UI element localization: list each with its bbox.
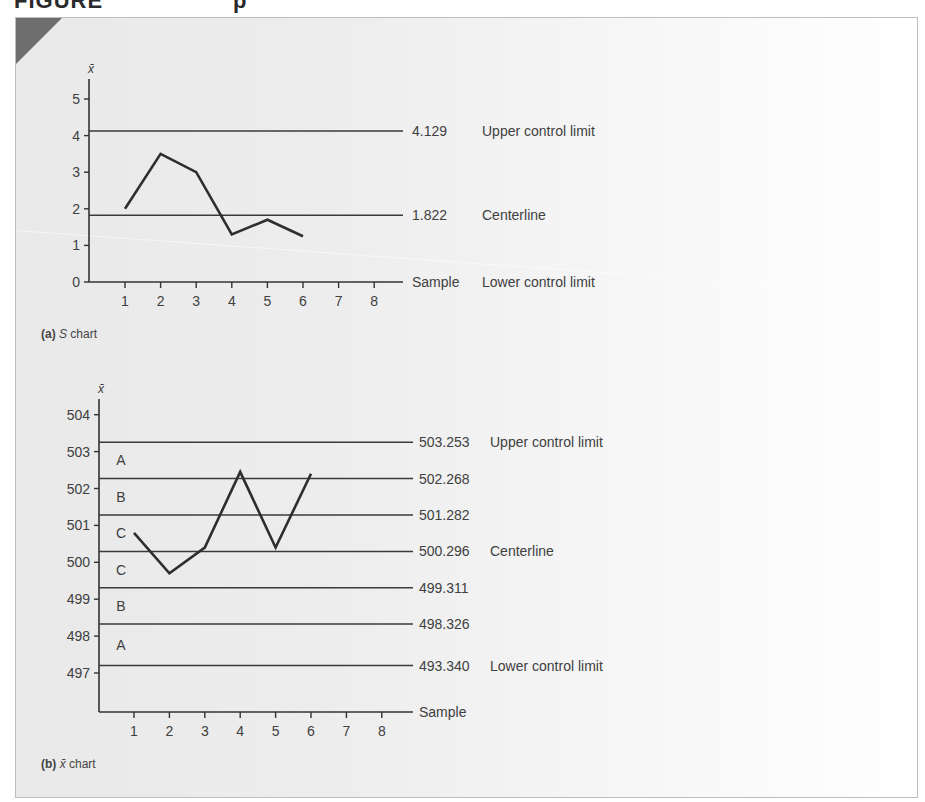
y-tick-label: 501: [67, 517, 91, 533]
s-y-ticks: 012345: [72, 91, 89, 290]
xbar-chart-caption: (b) x̄ chart: [41, 757, 96, 771]
reference-value-label: 501.282: [419, 507, 470, 523]
s-y-label: x̄: [87, 62, 95, 76]
xbar-y-label: x̄: [97, 382, 105, 396]
x-tick-label: 4: [236, 723, 244, 739]
reference-value-label: 500.296: [419, 543, 470, 559]
reference-name-label: Lower control limit: [490, 658, 603, 674]
y-tick-label: 504: [67, 407, 91, 423]
reference-value-label: 498.326: [419, 616, 470, 632]
s-caption-label: (a): [41, 327, 56, 341]
reference-value-label: 502.268: [419, 471, 470, 487]
s-caption-italic: S: [59, 327, 67, 341]
figure-header-cropped: FIGURE p: [0, 0, 925, 16]
x-tick-label: 5: [272, 723, 280, 739]
xbar-zone-labels: ABCCBA: [116, 452, 126, 652]
x-tick-label: 8: [370, 293, 378, 309]
reference-name-label: Upper control limit: [482, 123, 595, 139]
y-tick-label: 502: [67, 481, 91, 497]
x-tick-label: 7: [335, 293, 343, 309]
x-tick-label: 1: [130, 723, 138, 739]
s-chart: x̄ 012345 12345678 4.129Upper control li…: [72, 62, 595, 309]
x-tick-label: 6: [299, 293, 307, 309]
y-tick-label: 0: [72, 274, 80, 290]
x-tick-label: 1: [121, 293, 129, 309]
zone-label: A: [116, 452, 126, 468]
figure-title-partial: FIGURE: [14, 0, 103, 14]
x-tick-label: 3: [201, 723, 209, 739]
y-tick-label: 498: [67, 628, 91, 644]
xbar-caption-label: (b): [41, 757, 56, 771]
x-tick-label: 5: [264, 293, 272, 309]
figure-title-partial-2: p: [233, 0, 246, 14]
xbar-x-ticks: 12345678: [130, 712, 386, 739]
reference-value-label: 4.129: [412, 123, 447, 139]
xbar-y-ticks: 497498499500501502503504: [67, 407, 99, 681]
zone-label: C: [116, 525, 126, 541]
x-tick-label: 3: [192, 293, 200, 309]
reference-name-label: Upper control limit: [490, 434, 603, 450]
reference-value-label: 1.822: [412, 207, 447, 223]
reference-value-label: 493.340: [419, 658, 470, 674]
zone-label: B: [116, 489, 125, 505]
reference-name-label: Centerline: [490, 543, 554, 559]
x-tick-label: 2: [166, 723, 174, 739]
y-tick-label: 1: [72, 237, 80, 253]
x-tick-label: 8: [378, 723, 386, 739]
x-tick-label: 6: [307, 723, 315, 739]
reference-value-label: 499.311: [419, 580, 469, 596]
s-chart-caption: (a) S chart: [41, 327, 97, 341]
xbar-reference-lines: 503.253Upper control limit502.268501.282…: [99, 434, 603, 673]
s-data-line: [125, 154, 303, 236]
reference-name-label: Lower control limit: [482, 274, 595, 290]
y-tick-label: 2: [72, 201, 80, 217]
s-x-ticks: 12345678: [121, 282, 378, 309]
figure-frame: x̄ 012345 12345678 4.129Upper control li…: [15, 17, 918, 798]
xbar-data-line: [134, 472, 311, 573]
reference-name-label: Centerline: [482, 207, 546, 223]
y-tick-label: 499: [67, 591, 91, 607]
y-tick-label: 5: [72, 91, 80, 107]
xbar-caption-rest: chart: [66, 757, 96, 771]
reference-value-label: Sample: [412, 274, 460, 290]
zone-label: B: [116, 598, 125, 614]
y-tick-label: 4: [72, 128, 80, 144]
x-tick-label: 7: [343, 723, 351, 739]
xbar-x-label: Sample: [419, 704, 467, 720]
y-tick-label: 503: [67, 444, 91, 460]
x-tick-label: 4: [228, 293, 236, 309]
y-tick-label: 3: [72, 164, 80, 180]
xbar-chart: x̄ 497498499500501502503504 12345678 503…: [67, 382, 603, 739]
control-charts: x̄ 012345 12345678 4.129Upper control li…: [16, 18, 917, 797]
reference-value-label: 503.253: [419, 434, 470, 450]
x-tick-label: 2: [157, 293, 165, 309]
s-reference-lines: 4.129Upper control limit1.822CenterlineS…: [89, 123, 595, 290]
y-tick-label: 497: [67, 665, 91, 681]
zone-label: A: [116, 637, 126, 653]
s-caption-rest: chart: [67, 327, 97, 341]
y-tick-label: 500: [67, 554, 91, 570]
zone-label: C: [116, 562, 126, 578]
